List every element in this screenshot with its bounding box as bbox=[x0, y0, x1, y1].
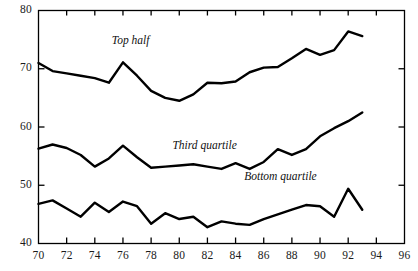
y-tick-label-50: 50 bbox=[6, 178, 32, 190]
plot-area bbox=[0, 0, 418, 271]
x-tick-label-72: 72 bbox=[55, 249, 79, 261]
x-tick-label-74: 74 bbox=[83, 249, 107, 261]
line-chart: 4050607080 7072747678808284868890929496 … bbox=[0, 0, 418, 271]
y-tick-label-60: 60 bbox=[6, 120, 32, 132]
series-label-1: Third quartile bbox=[172, 139, 236, 151]
x-tick-label-70: 70 bbox=[27, 249, 51, 261]
x-tick-label-96: 96 bbox=[393, 249, 417, 261]
x-tick-label-86: 86 bbox=[252, 249, 276, 261]
x-tick-label-78: 78 bbox=[139, 249, 163, 261]
x-tick-label-84: 84 bbox=[224, 249, 248, 261]
x-tick-label-82: 82 bbox=[195, 249, 219, 261]
y-tick-label-80: 80 bbox=[6, 3, 32, 15]
data-series-group bbox=[39, 31, 363, 227]
plot-frame bbox=[39, 11, 405, 244]
y-tick-label-70: 70 bbox=[6, 61, 32, 73]
x-tick-label-80: 80 bbox=[167, 249, 191, 261]
x-tick-label-94: 94 bbox=[364, 249, 388, 261]
x-tick-label-76: 76 bbox=[111, 249, 135, 261]
axis-ticks bbox=[39, 11, 405, 244]
series-line-2 bbox=[39, 189, 363, 227]
x-tick-label-90: 90 bbox=[308, 249, 332, 261]
series-line-0 bbox=[39, 31, 363, 100]
series-label-2: Bottom quartile bbox=[244, 170, 317, 182]
x-tick-label-88: 88 bbox=[280, 249, 304, 261]
series-label-0: Top half bbox=[112, 34, 150, 46]
y-tick-label-40: 40 bbox=[6, 236, 32, 248]
x-tick-label-92: 92 bbox=[336, 249, 360, 261]
